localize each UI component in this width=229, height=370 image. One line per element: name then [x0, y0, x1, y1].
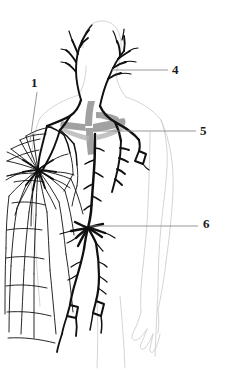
inguinal-node-left-vessels	[57, 316, 77, 352]
cervical-lymphatics-right	[100, 36, 130, 106]
cervical-lymphatics-right-fine	[113, 29, 138, 74]
leader-lines	[30, 70, 198, 226]
lymphatic-system-figure	[0, 0, 229, 370]
label-4: 4	[172, 63, 179, 76]
label-6: 6	[203, 217, 210, 230]
thymus-gray-mass	[60, 101, 125, 155]
parasternal-chain-right	[112, 141, 129, 192]
supratrochlear-node	[135, 151, 146, 164]
lymphatic-vessels	[5, 25, 149, 352]
label-5: 5	[200, 124, 207, 137]
right-arm-vessel-fine	[143, 164, 149, 170]
leader-line-1	[30, 92, 37, 141]
body-outline	[31, 21, 173, 368]
right-arm-vessel	[139, 140, 140, 151]
inguinal-node-right	[93, 301, 104, 316]
iliac-trunks	[70, 243, 99, 305]
label-1: 1	[31, 76, 38, 89]
